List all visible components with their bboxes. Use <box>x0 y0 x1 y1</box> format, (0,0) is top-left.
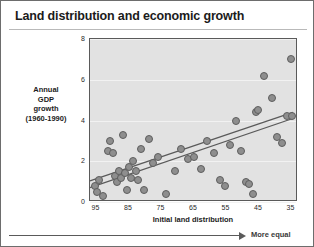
data-point <box>221 182 229 190</box>
data-point <box>95 176 103 184</box>
x-axis-title: Initial land distribution <box>89 215 297 224</box>
data-point <box>119 131 127 139</box>
data-point <box>145 135 153 143</box>
x-tick-label: 95 <box>92 204 100 211</box>
x-tick-label: 55 <box>222 204 230 211</box>
y-tick-label: 6 <box>69 75 85 82</box>
data-point <box>137 145 145 153</box>
y-tick-label: 8 <box>69 35 85 42</box>
data-point <box>140 186 148 194</box>
page-title: Land distribution and economic growth <box>15 9 244 23</box>
data-point <box>109 149 117 157</box>
data-point <box>232 117 240 125</box>
data-point <box>245 180 253 188</box>
arrow-right-icon <box>239 232 246 240</box>
data-point <box>132 167 140 175</box>
x-tick-label: 85 <box>124 204 132 211</box>
title-divider <box>9 29 307 30</box>
y-tick-label: 2 <box>69 157 85 164</box>
data-point <box>106 137 114 145</box>
x-tick-label: 45 <box>254 204 262 211</box>
arrow-shaft <box>9 235 241 236</box>
x-tick-label: 35 <box>287 204 295 211</box>
arrow-label: More equal <box>251 230 291 239</box>
x-tick-label: 65 <box>189 204 197 211</box>
data-point <box>134 176 142 184</box>
direction-indicator: More equal <box>9 230 307 242</box>
data-point <box>197 165 205 173</box>
data-point <box>203 137 211 145</box>
y-tick-label: 0 <box>69 198 85 205</box>
data-point <box>278 139 286 147</box>
gridline <box>90 202 296 203</box>
data-point <box>288 112 296 120</box>
data-point <box>177 145 185 153</box>
data-point <box>226 141 234 149</box>
y-tick-label: 4 <box>69 116 85 123</box>
x-tick-label: 75 <box>157 204 165 211</box>
chart-figure: Land distribution and economic growth An… <box>0 0 314 247</box>
data-point <box>249 190 257 198</box>
data-point <box>171 167 179 175</box>
data-point <box>123 186 131 194</box>
data-point <box>99 192 107 200</box>
y-axis-ticks: 02468 <box>67 38 85 201</box>
plot-area <box>89 38 297 201</box>
data-point <box>210 149 218 157</box>
data-point <box>260 72 268 80</box>
